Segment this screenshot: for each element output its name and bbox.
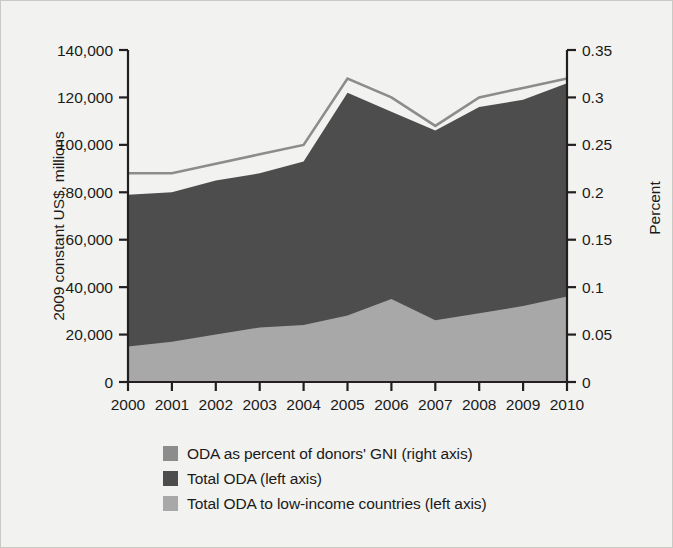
y-axis-right-tick-label: 0.35 <box>582 42 612 59</box>
y-axis-right-tick-label: 0.2 <box>582 184 604 201</box>
chart-legend: ODA as percent of donors' GNI (right axi… <box>163 441 487 516</box>
y-axis-right-tick-label: 0.05 <box>582 326 612 343</box>
x-axis-tick-label: 2009 <box>506 396 540 413</box>
y-axis-left-tick-label: 0 <box>104 374 113 391</box>
y-axis-right-tick-label: 0.3 <box>582 89 604 106</box>
y-axis-left-tick-label: 40,000 <box>66 279 114 296</box>
legend-swatch-icon <box>163 496 178 511</box>
x-axis-tick-label: 2008 <box>462 396 496 413</box>
y-axis-left-tick-label: 80,000 <box>66 184 114 201</box>
legend-swatch-icon <box>163 471 178 486</box>
x-axis-tick-label: 2003 <box>242 396 276 413</box>
chart-figure: 2009 constant US$, millions Percent 020,… <box>0 0 673 548</box>
x-axis-tick-label: 2007 <box>418 396 452 413</box>
legend-item-label: Total ODA to low-income countries (left … <box>187 495 487 513</box>
legend-swatch-icon <box>163 446 178 461</box>
x-axis-tick-label: 2006 <box>374 396 408 413</box>
x-axis-tick-label: 2010 <box>550 396 585 413</box>
x-axis-tick-label: 2002 <box>199 396 233 413</box>
legend-item[interactable]: ODA as percent of donors' GNI (right axi… <box>163 441 487 466</box>
x-axis-tick-label: 2005 <box>330 396 364 413</box>
legend-item[interactable]: Total ODA (left axis) <box>163 466 487 491</box>
y-axis-left-tick-label: 20,000 <box>66 326 114 343</box>
legend-item-label: Total ODA (left axis) <box>187 470 322 488</box>
y-axis-left: 020,00040,00060,00080,000100,000120,0001… <box>57 42 128 391</box>
x-axis-tick-label: 2004 <box>286 396 321 413</box>
x-axis-tick-label: 2000 <box>111 396 146 413</box>
legend-item-label: ODA as percent of donors' GNI (right axi… <box>187 445 473 463</box>
y-axis-right: 00.050.10.150.20.250.30.35 <box>567 42 612 391</box>
y-axis-right-tick-label: 0 <box>582 374 591 391</box>
y-axis-left-tick-label: 120,000 <box>57 89 113 106</box>
y-axis-left-tick-label: 60,000 <box>66 231 114 248</box>
y-axis-right-tick-label: 0.15 <box>582 231 612 248</box>
y-axis-right-tick-label: 0.25 <box>582 136 612 153</box>
series-areas <box>128 83 567 382</box>
y-axis-left-tick-label: 140,000 <box>57 42 113 59</box>
x-axis: 2000200120022003200420052006200720082009… <box>111 382 585 413</box>
y-axis-right-tick-label: 0.1 <box>582 279 604 296</box>
legend-item[interactable]: Total ODA to low-income countries (left … <box>163 491 487 516</box>
y-axis-left-tick-label: 100,000 <box>57 136 113 153</box>
x-axis-tick-label: 2001 <box>155 396 189 413</box>
